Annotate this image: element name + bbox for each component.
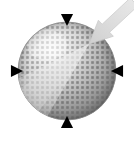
figure-container: sphere xyxy=(0,0,134,141)
sphere-diagram-svg xyxy=(0,0,134,141)
sphere-highlight xyxy=(27,30,67,60)
